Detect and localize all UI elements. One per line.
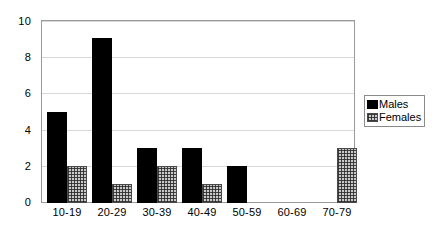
y-tick-label-10: 10 <box>18 16 31 27</box>
y-tick-label-2: 2 <box>25 161 31 172</box>
y-tick-label-8: 8 <box>25 52 31 63</box>
x-tick-label-30-39: 30-39 <box>142 206 171 219</box>
x-tick-label-20-29: 20-29 <box>97 206 126 219</box>
x-tick-label-40-49: 40-49 <box>187 206 216 219</box>
x-tick-label-10-19: 10-19 <box>52 206 81 219</box>
gridline-2 <box>42 166 354 167</box>
gridline-10 <box>42 21 354 22</box>
gridline-6 <box>42 93 354 94</box>
legend-swatch-males-icon <box>367 100 378 109</box>
gridline-8 <box>42 57 354 58</box>
legend-item-females: Females <box>367 111 421 124</box>
plot-area <box>41 20 355 203</box>
x-axis: 10-19 20-29 30-39 40-49 50-59 60-69 70-7… <box>41 206 355 226</box>
x-tick-label-50-59: 50-59 <box>232 206 261 219</box>
y-axis: 10 8 6 4 2 0 <box>0 20 36 203</box>
x-tick-label-60-69: 60-69 <box>277 206 306 219</box>
y-tick-label-6: 6 <box>25 88 31 99</box>
x-tick-label-70-79: 70-79 <box>322 206 351 219</box>
legend-label-females: Females <box>379 112 421 123</box>
bar-chart: 10 8 6 4 2 0 10-19 20-29 30-39 40-49 50-… <box>0 0 438 237</box>
legend-label-males: Males <box>379 99 408 110</box>
legend: Males Females <box>364 95 425 127</box>
y-tick-label-0: 0 <box>25 197 31 208</box>
legend-swatch-females-icon <box>367 113 378 122</box>
legend-item-males: Males <box>367 98 421 111</box>
y-tick-label-4: 4 <box>25 125 31 136</box>
gridline-4 <box>42 130 354 131</box>
